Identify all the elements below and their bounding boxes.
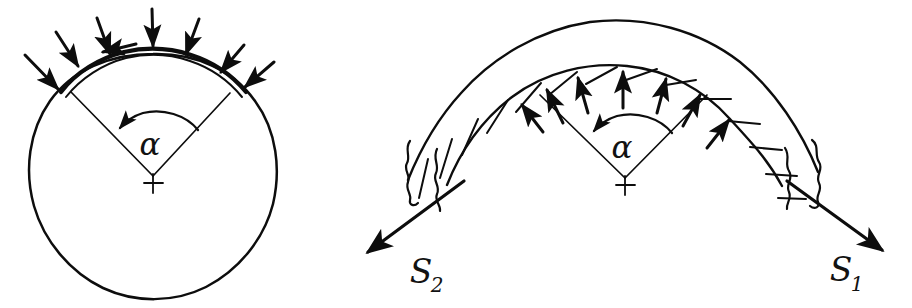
canvas-background: [0, 0, 912, 308]
tension-label-s1-subscript: 1: [851, 272, 864, 296]
tension-label-s2-base: S: [410, 252, 433, 291]
pressure-arrow-4: [152, 9, 153, 46]
tension-label-s2-subscript: 2: [430, 273, 444, 297]
diagram-svg: α: [0, 0, 912, 308]
figure-canvas: α: [0, 0, 912, 308]
angle-label-alpha-left: α: [140, 126, 161, 162]
angle-label-alpha-right: α: [612, 129, 633, 165]
tension-label-s1-base: S: [830, 250, 853, 289]
hatch-stroke: [778, 198, 806, 199]
